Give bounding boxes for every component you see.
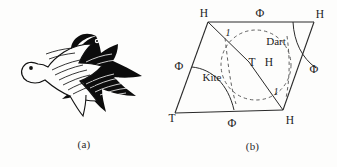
white-bird-eye — [29, 66, 33, 70]
edge-label-left: Φ — [175, 59, 184, 73]
dart-tile-label: Dart — [266, 35, 286, 47]
dart-vertex-label-h: H — [265, 56, 273, 68]
rhombus-edge-bottom — [175, 110, 283, 113]
panel-a-caption: (a) — [0, 138, 168, 150]
edge-label-top: Φ — [256, 6, 265, 20]
kite-tile-label: Kite — [203, 71, 222, 83]
edge-label-right: Φ — [310, 62, 319, 76]
edge-label-bottom: Φ — [228, 116, 237, 130]
kite-dart-rhombus-diagram: H H T H Φ Φ Φ Φ 1 1 Dart Kite T H — [168, 0, 337, 140]
white-bird-tail — [70, 95, 86, 116]
dart-vertex-label-t: T — [248, 56, 255, 68]
unit-length-label-bottom: 1 — [274, 86, 279, 97]
vertex-label-top-left: H — [200, 7, 208, 19]
panel-b: H H T H Φ Φ Φ Φ 1 1 Dart Kite T H (b) — [168, 0, 337, 167]
vertex-label-bottom-left: T — [168, 112, 175, 124]
vertex-label-bottom-right: H — [286, 114, 294, 126]
dashed-arc-right — [286, 36, 289, 98]
figure-root: (a) — [0, 0, 337, 167]
panel-b-caption: (b) — [168, 140, 337, 152]
bird-tessellation-drawing — [0, 0, 168, 135]
vertex-label-top-right: H — [316, 8, 324, 20]
panel-a: (a) — [0, 0, 168, 167]
unit-length-label-top: 1 — [226, 27, 231, 38]
black-bird-pupil — [96, 40, 98, 42]
